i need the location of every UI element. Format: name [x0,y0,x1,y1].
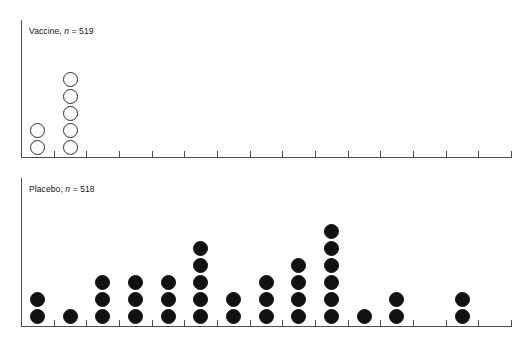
axis-tick [511,320,512,327]
data-dot [63,140,78,155]
data-dot [259,292,274,307]
data-dot [193,241,208,256]
panel-placebo-x-axis [21,326,511,327]
axis-tick [478,151,479,158]
axis-tick [413,320,414,327]
dot-stack [95,178,110,326]
axis-tick [413,151,414,158]
axis-tick [315,151,316,158]
axis-tick [380,151,381,158]
dot-stack [389,178,404,326]
axis-tick [54,320,55,327]
data-dot [291,275,306,290]
data-dot [193,309,208,324]
data-dot [226,292,241,307]
axis-tick [446,320,447,327]
data-dot [128,292,143,307]
axis-tick [184,151,185,158]
data-dot [455,292,470,307]
panel-placebo: Placebo, n = 518 [0,178,529,339]
axis-tick [152,320,153,327]
data-dot [161,275,176,290]
dot-stack [63,20,78,157]
axis-tick [478,320,479,327]
data-dot [324,309,339,324]
data-dot [161,309,176,324]
data-dot [291,309,306,324]
axis-tick [446,151,447,158]
dot-stack [455,178,470,326]
dot-stack [324,178,339,326]
panel-vaccine-x-axis [21,157,511,158]
axis-tick [315,320,316,327]
panel-vaccine-y-axis [21,20,22,157]
data-dot [95,275,110,290]
data-dot [63,309,78,324]
data-dot [63,123,78,138]
dot-stack [161,178,176,326]
axis-tick [217,151,218,158]
data-dot [30,309,45,324]
data-dot [193,258,208,273]
dot-stack [193,178,208,326]
axis-tick [152,151,153,158]
data-dot [324,258,339,273]
dot-plot-figure: Vaccine, n = 519 Placebo, n = 518 [0,0,529,340]
dot-stack [30,178,45,326]
data-dot [95,309,110,324]
data-dot [324,275,339,290]
data-dot [324,292,339,307]
axis-tick [86,151,87,158]
data-dot [63,72,78,87]
data-dot [30,123,45,138]
panel-placebo-y-axis [21,178,22,326]
axis-tick [54,151,55,158]
data-dot [128,275,143,290]
data-dot [389,309,404,324]
data-dot [193,275,208,290]
axis-tick [348,151,349,158]
data-dot [259,309,274,324]
data-dot [63,89,78,104]
axis-tick [282,320,283,327]
data-dot [324,224,339,239]
axis-tick [250,320,251,327]
axis-tick [184,320,185,327]
data-dot [63,106,78,121]
dot-stack [291,178,306,326]
data-dot [291,292,306,307]
axis-tick [86,320,87,327]
axis-tick [119,151,120,158]
data-dot [128,309,143,324]
data-dot [95,292,110,307]
axis-tick [348,320,349,327]
data-dot [30,140,45,155]
axis-tick [282,151,283,158]
data-dot [389,292,404,307]
data-dot [226,309,241,324]
panel-vaccine: Vaccine, n = 519 [0,20,529,170]
axis-tick [380,320,381,327]
data-dot [161,292,176,307]
axis-tick [250,151,251,158]
data-dot [455,309,470,324]
dot-stack [128,178,143,326]
axis-tick [119,320,120,327]
data-dot [324,241,339,256]
data-dot [357,309,372,324]
data-dot [291,258,306,273]
data-dot [30,292,45,307]
axis-tick [511,151,512,158]
dot-stack [63,178,78,326]
dot-stack [357,178,372,326]
dot-stack [226,178,241,326]
data-dot [193,292,208,307]
data-dot [259,275,274,290]
dot-stack [259,178,274,326]
axis-tick [217,320,218,327]
dot-stack [30,20,45,157]
